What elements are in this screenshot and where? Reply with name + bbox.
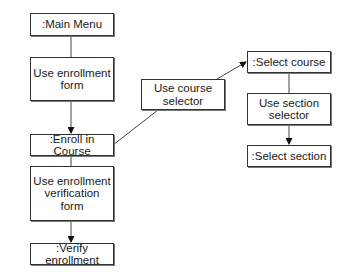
node-select-course: :Select course <box>247 51 331 73</box>
node-enroll-in-course: :Enroll in Course <box>30 134 114 156</box>
node-use-enrollment-form: Use enrollment form <box>30 57 114 101</box>
node-use-course-selector: Use course selector <box>141 79 225 110</box>
node-verify-enrollment: :Verify enrollment <box>30 243 114 265</box>
node-select-section: :Select section <box>247 145 331 167</box>
node-main-menu: :Main Menu <box>30 13 114 36</box>
node-use-section-selector: Use section selector <box>247 93 331 125</box>
node-use-enrollment-verification-form: Use enrollment verification form <box>30 166 114 221</box>
